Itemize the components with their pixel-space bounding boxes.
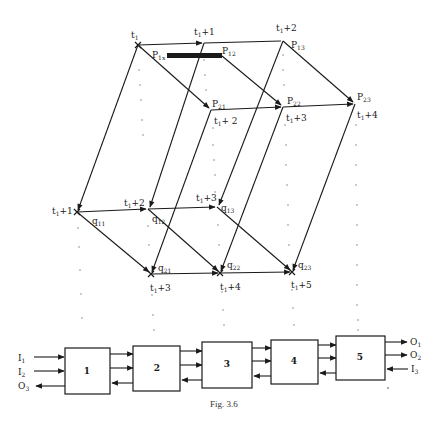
stage-box-2: 2: [133, 346, 180, 391]
svg-text:t1+3: t1+3: [150, 283, 171, 294]
node-p22: P22 t1+3: [286, 96, 307, 124]
svg-text:O2: O2: [410, 350, 421, 361]
stage-box-4: 4: [271, 340, 318, 384]
svg-text:t1+3: t1+3: [286, 113, 307, 124]
node-q13: t1+3 q13: [196, 193, 235, 214]
right-io: O1 O2 I3: [385, 337, 421, 375]
stage-box-5: 5: [336, 336, 385, 380]
svg-text:t1+1: t1+1: [52, 206, 73, 217]
node-p23: P23 t1+4: [357, 92, 378, 121]
thick-transition-bar: [167, 53, 222, 58]
node-t1-plus-1: t1+1: [194, 27, 215, 38]
left-io: I1 I2 O3: [18, 353, 66, 392]
svg-text:I2: I2: [18, 367, 26, 378]
svg-text:4: 4: [291, 356, 297, 366]
svg-text:q22: q22: [227, 260, 241, 271]
svg-text:P21: P21: [212, 99, 226, 110]
svg-text:P23: P23: [357, 92, 371, 103]
svg-text:1: 1: [84, 366, 90, 376]
svg-text:t1: t1: [131, 30, 138, 41]
svg-text:P13: P13: [291, 40, 305, 51]
figure-caption: Fig. 3.6: [210, 399, 238, 409]
svg-text:t1+1: t1+1: [194, 27, 215, 38]
svg-text:q11: q11: [92, 216, 105, 227]
stage-box-3: 3: [202, 342, 252, 388]
node-p21: P21 t1+ 2: [212, 99, 238, 127]
stage-box-1: 1: [65, 348, 110, 394]
pipeline-diagram: I1 I2 O3 1 2 3: [18, 336, 421, 394]
svg-text:t1+3: t1+3: [196, 193, 217, 204]
svg-text:q21: q21: [158, 263, 171, 274]
svg-text:t1+5: t1+5: [291, 280, 312, 291]
svg-text:q23: q23: [298, 260, 312, 271]
svg-text:2: 2: [154, 363, 160, 373]
svg-text:I3: I3: [411, 364, 419, 375]
svg-text:t1+4: t1+4: [220, 282, 241, 293]
svg-text:O3: O3: [18, 381, 29, 392]
node-q12: t1+2 q12: [124, 198, 166, 225]
node-t1: t1: [131, 30, 138, 41]
node-q23: q23 t1+5: [291, 260, 312, 291]
petri-net-diagram: t1 t1+1 t1+2 P13 P1x P12 P21 t1+ 2 P22 t…: [0, 0, 443, 431]
edges: [77, 41, 355, 274]
svg-text:q13: q13: [221, 203, 235, 214]
svg-text:t1+ 2: t1+ 2: [214, 116, 238, 127]
svg-text:q12: q12: [152, 214, 166, 225]
label-p1x: P1x: [152, 50, 166, 61]
svg-text:t1+4: t1+4: [357, 110, 378, 121]
svg-text:5: 5: [357, 352, 363, 362]
svg-text:3: 3: [224, 359, 230, 369]
svg-text:P22: P22: [287, 96, 301, 107]
svg-text:I1: I1: [18, 353, 25, 364]
svg-text:O1: O1: [410, 337, 421, 348]
label-p12: P12: [222, 46, 236, 57]
svg-text:t1+2: t1+2: [276, 23, 297, 34]
svg-text:t1+2: t1+2: [124, 198, 145, 209]
